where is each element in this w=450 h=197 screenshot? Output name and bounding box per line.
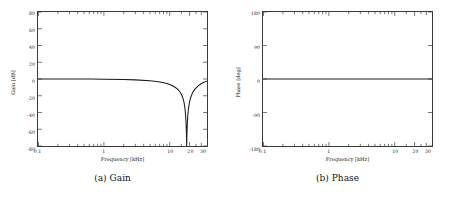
panel-gain: 80 60 40 20 0 -20 -40 -60 -80 Gain [dB] — [0, 0, 225, 197]
y-tick-label: 180 — [251, 11, 260, 16]
caption-number: (b) — [316, 173, 329, 183]
x-tick-label: 10 — [392, 149, 398, 155]
gain-curve — [38, 79, 206, 146]
y-tick-label: 0 — [32, 79, 35, 84]
caption-text: Phase — [332, 173, 359, 183]
gain-y-tick-labels: 80 60 40 20 0 -20 -40 -60 -80 — [16, 11, 35, 147]
x-tick-label: 30 — [425, 149, 431, 155]
y-tick-label: 20 — [29, 62, 35, 67]
gain-plot-svg — [38, 12, 207, 146]
y-tick-label: -90 — [252, 113, 260, 118]
phase-plot-area — [262, 11, 433, 147]
x-tick-label: 0.1 — [259, 149, 267, 155]
figure-bode-plots: 80 60 40 20 0 -20 -40 -60 -80 Gain [dB] — [0, 0, 450, 197]
y-tick-label: 40 — [29, 45, 35, 50]
panel-phase: 180 90 0 -90 -180 Phase [deg] — [225, 0, 450, 197]
caption-text: Gain — [110, 173, 131, 183]
y-tick-label: -60 — [27, 130, 35, 135]
gain-plot-area — [37, 11, 208, 147]
gain-x-axis-title: Frequency [kHz] — [37, 156, 208, 163]
caption-gain: (a)Gain — [0, 172, 225, 184]
y-tick-label: 0 — [257, 79, 260, 84]
caption-number: (a) — [94, 173, 106, 183]
phase-x-axis-title: Frequency [kHz] — [262, 156, 433, 163]
y-tick-label: 80 — [29, 11, 35, 16]
x-tick-label: 1 — [327, 149, 330, 155]
y-tick-label: -40 — [27, 113, 35, 118]
y-tick-label: 90 — [254, 45, 260, 50]
x-tick-label: 30 — [200, 149, 206, 155]
phase-y-tick-labels: 180 90 0 -90 -180 — [241, 11, 260, 147]
x-tick-label: 0.1 — [34, 149, 42, 155]
x-tick-label: 10 — [167, 149, 173, 155]
x-tick-label: 20 — [412, 149, 418, 155]
caption-phase: (b)Phase — [225, 172, 450, 184]
x-tick-label: 1 — [102, 149, 105, 155]
x-tick-label: 20 — [187, 149, 193, 155]
y-tick-label: 60 — [29, 28, 35, 33]
phase-plot-svg — [263, 12, 432, 146]
phase-y-axis-title: Phase [deg] — [235, 53, 242, 113]
y-tick-label: -20 — [27, 96, 35, 101]
gain-y-axis-title: Gain [dB] — [10, 53, 17, 113]
